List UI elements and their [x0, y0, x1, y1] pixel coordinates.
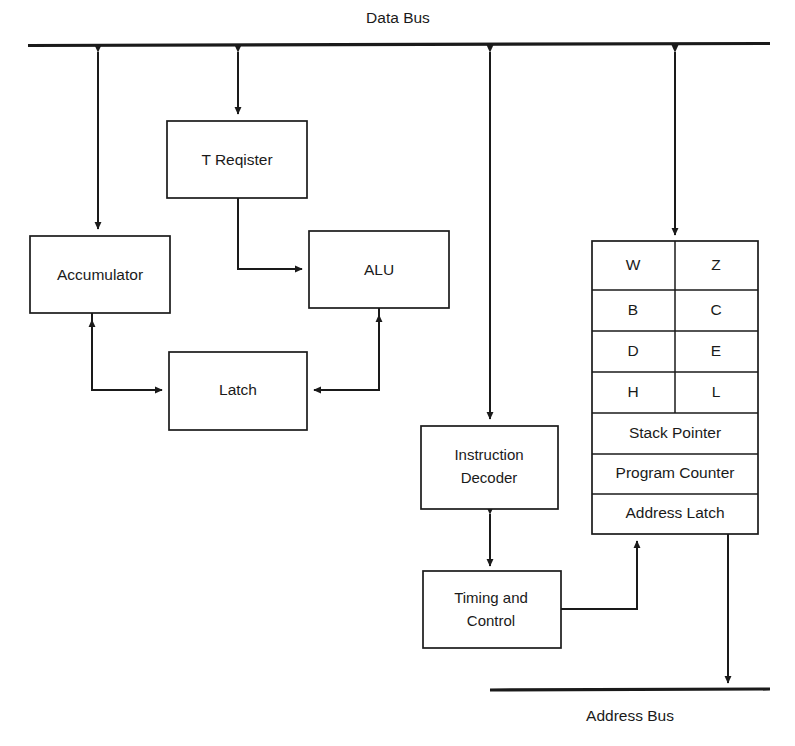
- address-bus-line: [490, 689, 770, 690]
- instruction-decoder-box[interactable]: [421, 426, 558, 509]
- accumulator-label: Accumulator: [57, 266, 143, 283]
- register-cell-address-latch[interactable]: Address Latch: [625, 504, 724, 521]
- accumulator-latch-wire: [92, 313, 162, 390]
- register-file[interactable]: W Z B C D E H L Stack Pointer Program Co…: [592, 241, 758, 534]
- address-bus-group: Address Bus: [490, 689, 770, 724]
- timing-control-label-line2: Control: [467, 612, 515, 629]
- diagram-canvas: Data Bus Address Bus: [0, 0, 795, 746]
- block-timing-control[interactable]: Timing and Control: [423, 571, 561, 648]
- register-cell-z[interactable]: Z: [711, 256, 720, 273]
- data-bus-label: Data Bus: [366, 9, 430, 26]
- block-accumulator[interactable]: Accumulator: [30, 236, 170, 313]
- latch-label: Latch: [219, 381, 257, 398]
- register-cell-stack-pointer[interactable]: Stack Pointer: [629, 424, 721, 441]
- instruction-decoder-label-line1: Instruction: [454, 446, 523, 463]
- register-cell-e[interactable]: E: [711, 342, 721, 359]
- timing-to-register-file-connector: [561, 541, 637, 609]
- register-cell-program-counter[interactable]: Program Counter: [616, 464, 735, 481]
- register-cell-w[interactable]: W: [626, 256, 641, 273]
- block-t-register[interactable]: T Reqister: [167, 121, 307, 198]
- timing-control-box[interactable]: [423, 571, 561, 648]
- accumulator-to-latch-connector: [92, 313, 162, 390]
- t-register-to-alu-connector: [238, 198, 302, 269]
- t-register-alu-wire: [238, 198, 302, 269]
- alu-to-latch-connector: [314, 308, 379, 390]
- data-bus-line: [28, 44, 770, 46]
- timing-register-file-wire: [561, 541, 637, 609]
- alu-label: ALU: [364, 261, 394, 278]
- address-bus-label: Address Bus: [586, 707, 674, 724]
- register-cell-l[interactable]: L: [712, 383, 721, 400]
- instruction-decoder-label-line2: Decoder: [461, 469, 518, 486]
- timing-control-label-line1: Timing and: [454, 589, 528, 606]
- alu-latch-wire: [314, 308, 379, 390]
- t-register-label: T Reqister: [201, 151, 272, 168]
- data-bus-group: Data Bus: [28, 9, 770, 45]
- block-instruction-decoder[interactable]: Instruction Decoder: [421, 426, 558, 509]
- cpu-block-diagram: Data Bus Address Bus: [0, 0, 795, 746]
- register-cell-h[interactable]: H: [627, 383, 638, 400]
- block-latch[interactable]: Latch: [169, 352, 307, 430]
- register-cell-c[interactable]: C: [710, 301, 721, 318]
- register-cell-b[interactable]: B: [628, 301, 638, 318]
- block-alu[interactable]: ALU: [309, 231, 449, 308]
- register-cell-d[interactable]: D: [627, 342, 638, 359]
